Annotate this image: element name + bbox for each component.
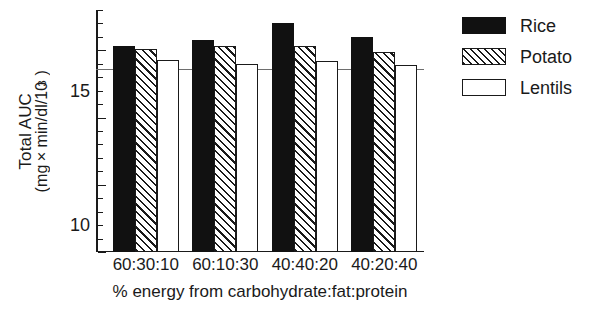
y-axis-unit-exponent: 3 — [36, 80, 48, 86]
y-axis-minor-tick — [98, 23, 103, 24]
chart-legend: RicePotatoLentils — [462, 10, 602, 103]
bar-group — [272, 10, 338, 252]
legend-label: Potato — [520, 48, 572, 66]
y-axis-tick-label: 10 — [70, 216, 90, 234]
y-axis-unit-mid: min/dl/10 — [33, 81, 50, 147]
x-axis-tick-label: 40:40:20 — [272, 256, 338, 273]
bar-rice — [351, 37, 373, 252]
y-axis-minor-tick — [98, 10, 103, 11]
y-axis-minor-tick — [98, 104, 103, 105]
y-axis-minor-tick — [98, 144, 103, 145]
bar-group — [351, 10, 417, 252]
y-axis-minor-tick — [98, 91, 103, 92]
legend-item-rice: Rice — [462, 10, 602, 41]
y-axis-minor-tick — [98, 131, 103, 132]
legend-item-lentils: Lentils — [462, 72, 602, 103]
y-axis-minor-tick — [98, 64, 103, 65]
bar-rice — [272, 23, 294, 252]
y-axis-minor-tick — [98, 158, 103, 159]
y-axis-minor-tick — [98, 37, 103, 38]
y-axis-title: Total AUC (mg×min/dl/103) — [2, 0, 64, 262]
bar-potato — [294, 46, 316, 252]
x-axis-tick-label: 40:20:40 — [351, 256, 417, 273]
bar-rice — [192, 40, 214, 252]
bar-potato — [135, 49, 157, 252]
y-axis-major-tick: 15 — [98, 50, 106, 51]
y-axis-title-line-1: Total AUC — [17, 93, 34, 170]
y-axis-minor-tick — [98, 198, 103, 199]
legend-swatch-rice — [462, 17, 506, 34]
bar-lentils — [157, 60, 179, 252]
y-axis-minor-tick — [98, 171, 103, 172]
y-axis-major-tick: 0 — [98, 252, 106, 253]
y-axis-minor-tick — [98, 225, 103, 226]
y-axis-minor-tick — [98, 77, 103, 78]
y-axis-major-tick: 10 — [98, 118, 106, 119]
y-axis-major-tick: 5 — [98, 185, 106, 186]
bar-group — [192, 10, 258, 252]
bar-chart-figure: Total AUC (mg×min/dl/103) 051015 60:30:1… — [0, 0, 605, 311]
bar-lentils — [395, 65, 417, 252]
y-axis-unit-prefix: (mg — [33, 164, 50, 192]
y-axis-unit-suffix: ) — [33, 70, 50, 75]
y-axis-minor-tick — [98, 239, 103, 240]
bar-rice — [113, 46, 135, 252]
y-axis-minor-tick — [98, 212, 103, 213]
plot-area: 051015 — [96, 10, 424, 252]
x-axis-tick-label: 60:30:10 — [113, 256, 179, 273]
legend-label: Rice — [520, 17, 556, 35]
legend-label: Lentils — [520, 79, 572, 97]
multiplication-sign-icon: × — [33, 147, 50, 164]
legend-swatch-potato — [462, 48, 506, 65]
x-axis-tick-label: 60:10:30 — [192, 256, 258, 273]
bar-lentils — [316, 61, 338, 252]
x-axis-title: % energy from carbohydrate:fat:protein — [96, 283, 424, 300]
legend-swatch-lentils — [462, 79, 506, 96]
bar-potato — [373, 52, 395, 252]
bar-lentils — [236, 64, 258, 252]
y-axis-tick-label: 15 — [70, 82, 90, 100]
legend-item-potato: Potato — [462, 41, 602, 72]
bar-group — [113, 10, 179, 252]
y-axis-title-line-2: (mg×min/dl/103) — [34, 70, 50, 192]
bar-potato — [214, 46, 236, 252]
